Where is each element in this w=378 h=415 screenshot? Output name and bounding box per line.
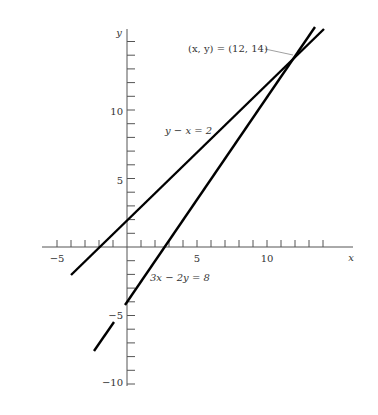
y-tick-label-5: 5 — [117, 175, 123, 186]
x-tick-label-5: 5 — [194, 253, 200, 264]
x-tick-label-10: 10 — [261, 253, 274, 264]
y-tick-label-neg5: −5 — [108, 310, 123, 321]
line-3x-minus-2y-eq-8 — [125, 27, 315, 305]
chart-container: −5 5 10 x 10 5 −5 −10 y (x, y) = (12, 14… — [0, 0, 378, 415]
intersection-leader-line — [265, 49, 293, 55]
line-3x-minus-2y-eq-8-lower — [94, 322, 114, 351]
x-tick-label-neg5: −5 — [50, 253, 65, 264]
y-tick-label-neg10: −10 — [102, 377, 123, 388]
y-tick-label-10: 10 — [110, 106, 123, 117]
line-chart: −5 5 10 x 10 5 −5 −10 y (x, y) = (12, 14… — [0, 0, 378, 415]
y-axis-label: y — [115, 27, 122, 38]
x-ticks — [57, 240, 323, 247]
line-y-minus-x-eq-2 — [71, 29, 324, 275]
line1-label: y − x = 2 — [164, 125, 212, 136]
line2-label: 3x − 2y = 8 — [150, 272, 210, 283]
x-axis-label: x — [348, 252, 354, 263]
intersection-label: (x, y) = (12, 14) — [188, 43, 268, 54]
